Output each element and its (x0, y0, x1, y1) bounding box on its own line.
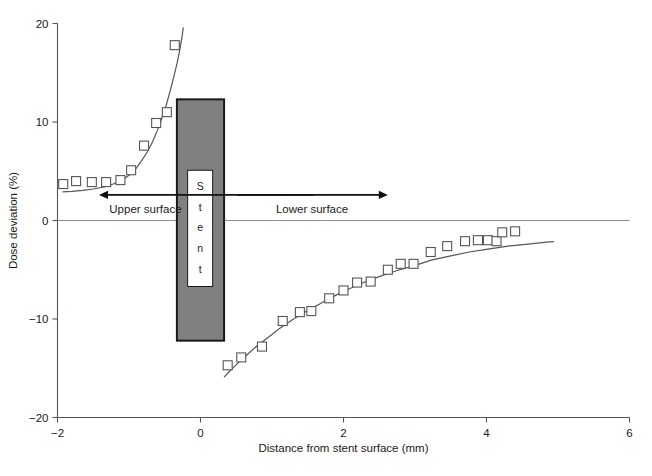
stent-label-letter: S (197, 180, 204, 192)
data-point-marker (383, 265, 392, 274)
stent-label-letter: t (199, 201, 202, 213)
y-axis-tick-label: 20 (36, 18, 49, 30)
data-point-marker (473, 236, 482, 245)
data-point-marker (307, 307, 316, 316)
data-point-marker (492, 237, 501, 246)
data-point-marker (140, 141, 149, 150)
data-point-marker (72, 177, 81, 186)
stent-label-letter: e (197, 221, 203, 233)
data-point-marker (498, 228, 507, 237)
data-point-marker (461, 237, 470, 246)
data-point-marker (152, 118, 161, 127)
x-axis-tick-label: 6 (626, 427, 632, 439)
x-axis-tick-label: 4 (483, 427, 490, 439)
data-point-marker (102, 178, 111, 187)
data-point-marker (511, 227, 520, 236)
data-point-marker (443, 242, 452, 251)
data-point-marker (426, 248, 435, 257)
x-axis-title: Distance from stent surface (mm) (259, 442, 429, 454)
y-axis-title: Dose deviation (%) (7, 172, 19, 269)
x-axis-tick-label: 0 (197, 427, 203, 439)
stent-label-letter: t (199, 263, 202, 275)
data-point-marker (295, 308, 304, 317)
data-point-marker (409, 259, 418, 268)
stent-label-letter: n (197, 242, 203, 254)
y-axis-tick-label: −20 (29, 412, 49, 424)
data-point-marker (237, 353, 246, 362)
data-point-marker (223, 361, 232, 370)
data-point-marker (396, 259, 405, 268)
y-axis-tick-label: −10 (29, 313, 49, 325)
data-point-marker (170, 41, 179, 50)
data-point-marker (87, 178, 96, 187)
y-axis-tick-label: 10 (36, 116, 49, 128)
y-axis-tick-label: 0 (42, 215, 48, 227)
data-point-marker (257, 342, 266, 351)
upper-surface-arrow-label: Upper surface (109, 203, 181, 215)
fit-curve (224, 242, 554, 377)
data-point-marker (366, 277, 375, 286)
data-point-marker (483, 236, 492, 245)
data-point-marker (59, 180, 68, 189)
dose-deviation-scatter-plot: −20−1001020Dose deviation (%)−20246Dista… (0, 0, 652, 476)
data-point-marker (162, 108, 171, 117)
lower-surface-arrow-label: Lower surface (276, 203, 348, 215)
data-point-marker (325, 294, 334, 303)
lower-surface-arrow-head (379, 191, 388, 199)
chart-figure: −20−1001020Dose deviation (%)−20246Dista… (0, 0, 652, 476)
data-point-marker (116, 176, 125, 185)
upper-surface-arrow-head (99, 191, 108, 199)
x-axis-tick-label: 2 (340, 427, 346, 439)
data-point-marker (353, 278, 362, 287)
data-point-marker (127, 166, 136, 175)
data-point-marker (278, 316, 287, 325)
data-point-marker (339, 286, 348, 295)
x-axis-tick-label: −2 (51, 427, 64, 439)
